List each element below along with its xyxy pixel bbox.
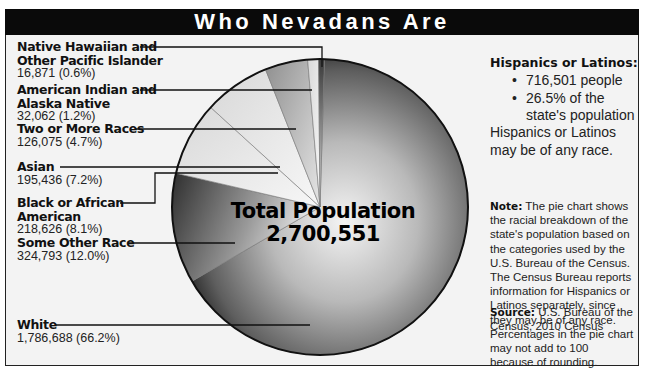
callout-label: Two or More Races126,075 (4.7%) (17, 122, 144, 149)
callout-value: 1,786,688 (66.2%) (17, 332, 120, 346)
hispanic-bullet-list: 716,501 people 26.5% of the state's popu… (512, 72, 645, 125)
callout-category-name: Black or African (17, 196, 124, 210)
total-population-title: Total Population (228, 200, 418, 223)
callout-category-name-cont: Other Pacific Islander (17, 54, 163, 68)
chart-source: Source: U.S. Bureau of the Census, 2010 … (490, 305, 635, 333)
callout-label: Some Other Race324,793 (12.0%) (17, 236, 134, 263)
callout-category-name: American Indian and (17, 83, 157, 97)
callout-label: White1,786,688 (66.2%) (17, 318, 120, 345)
total-population-value: 2,700,551 (228, 223, 418, 246)
callout-label: American Indian andAlaska Native32,062 (… (17, 83, 157, 124)
callout-value: 16,871 (0.6%) (17, 67, 163, 81)
hispanic-heading: Hispanics or Latinos: (490, 55, 638, 70)
callout-label: Native Hawaiian andOther Pacific Islande… (17, 40, 163, 81)
total-population-label: Total Population 2,700,551 (228, 200, 418, 246)
callout-category-name: Two or More Races (17, 122, 144, 136)
callout-category-name-cont: American (17, 210, 124, 224)
callout-category-name: White (17, 318, 120, 332)
callout-value: 324,793 (12.0%) (17, 250, 134, 264)
callout-value: 195,436 (7.2%) (17, 174, 102, 188)
callout-label: Asian195,436 (7.2%) (17, 160, 102, 187)
hispanic-note: Hispanics or Latinos may be of any race. (490, 124, 635, 159)
source-label: Source: (490, 306, 535, 318)
callout-value: 126,075 (4.7%) (17, 136, 144, 150)
note-label: Note: (490, 200, 522, 212)
callout-category-name: Native Hawaiian and (17, 40, 163, 54)
chart-note: Note: The pie chart shows the racial bre… (490, 199, 635, 369)
hispanic-bullet-people: 716,501 people (512, 72, 645, 90)
callout-label: Black or AfricanAmerican218,626 (8.1%) (17, 196, 124, 237)
callout-category-name: Some Other Race (17, 236, 134, 250)
callout-category-name: Asian (17, 160, 102, 174)
callout-category-name-cont: Alaska Native (17, 97, 157, 111)
note-text: The pie chart shows the racial breakdown… (490, 200, 633, 368)
hispanic-bullet-percent: 26.5% of the state's population (512, 90, 645, 125)
